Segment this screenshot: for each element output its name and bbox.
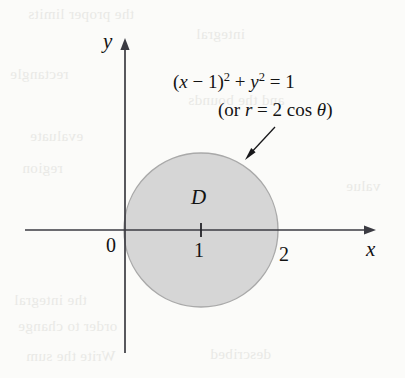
x-tick-label-1: 1 (194, 240, 204, 260)
equation-equals-sign: = (265, 71, 285, 92)
x-axis-label: x (366, 239, 375, 260)
polar-open-text: (or (218, 99, 245, 120)
y-axis-label: y (103, 31, 112, 52)
polar-cosine-function: cos (282, 99, 317, 120)
region-label-D: D (191, 187, 206, 208)
equation-right-hand-side: 1 (285, 71, 295, 92)
equation-minus-sign: − (188, 71, 208, 92)
x-axis-arrowhead (364, 225, 376, 234)
equation-variable-x: x (179, 71, 187, 92)
polar-coefficient: 2 (273, 99, 283, 120)
figure-canvas: the proper limits integral rectangle and… (0, 0, 405, 378)
polar-equation-label: (or r = 2 cos θ) (218, 100, 333, 119)
equation-plus-sign: + (230, 71, 250, 92)
y-axis-arrowhead (120, 38, 129, 50)
equation-variable-y: y (250, 71, 258, 92)
origin-label: 0 (106, 235, 116, 255)
polar-close-paren: ) (326, 99, 332, 120)
polar-equals-sign: = (252, 99, 272, 120)
polar-theta-symbol: θ (317, 99, 326, 120)
cartesian-equation-label: (x − 1)2 + y2 = 1 (173, 71, 295, 91)
x-tick-label-2: 2 (279, 244, 289, 264)
